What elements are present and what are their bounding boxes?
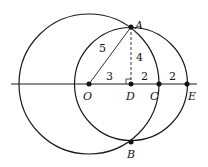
label-b: B — [126, 148, 135, 161]
length-od: 3 — [106, 70, 113, 83]
geometry-diagram: A B O D C E 5 4 3 2 2 — [0, 0, 208, 167]
length-oa: 5 — [99, 42, 106, 55]
point-d — [129, 82, 134, 87]
label-o: O — [83, 90, 92, 103]
label-d: D — [125, 90, 135, 103]
point-e — [185, 82, 190, 87]
length-ce: 2 — [169, 70, 176, 83]
length-dc: 2 — [141, 70, 148, 83]
label-e: E — [187, 90, 196, 103]
point-b — [129, 140, 134, 145]
point-a — [129, 25, 134, 30]
label-a: A — [134, 19, 143, 32]
point-c — [157, 82, 162, 87]
label-c: C — [150, 90, 159, 103]
length-ad: 4 — [136, 51, 143, 64]
point-o — [87, 82, 92, 87]
